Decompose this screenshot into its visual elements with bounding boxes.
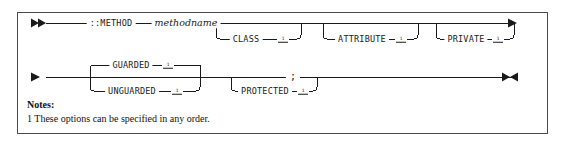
token-semicolon: ; <box>286 72 300 82</box>
footnote-ref-rule <box>396 41 406 42</box>
footnote-ref-class: 1 <box>277 36 289 43</box>
token-method-keyword: ::METHOD <box>87 19 136 28</box>
figure-border: ::METHOD methodname CLASS 1 ATTRIBUTE 1 … <box>17 12 548 134</box>
option-private-label: PRIVATE <box>444 35 487 44</box>
rail-markers <box>31 19 518 82</box>
footnote-ref-rule <box>493 41 503 42</box>
footnote-ref-rule <box>163 67 173 68</box>
token-methodname: methodname <box>152 18 221 28</box>
footnote-ref-protected: 1 <box>297 88 309 95</box>
footnote-ref-attribute-number: 1 <box>395 36 407 41</box>
syntax-diagram-figure: ::METHOD methodname CLASS 1 ATTRIBUTE 1 … <box>0 0 565 145</box>
footnote-ref-guarded-number: 1 <box>162 62 174 67</box>
option-guarded-label: GUARDED <box>109 61 152 70</box>
option-class-label: CLASS <box>230 35 263 44</box>
option-attribute-label: ATTRIBUTE <box>335 35 389 44</box>
footnote-ref-rule <box>172 93 182 94</box>
option-unguarded-label: UNGUARDED <box>105 87 159 96</box>
notes-block: Notes: 1 These options can be specified … <box>27 99 527 125</box>
footnote-ref-unguarded-number: 1 <box>171 88 183 93</box>
notes-item: 1 These options can be specified in any … <box>27 112 527 125</box>
footnote-ref-protected-number: 1 <box>297 88 309 93</box>
footnote-ref-attribute: 1 <box>395 36 407 43</box>
footnote-ref-private: 1 <box>492 36 504 43</box>
footnote-ref-guarded: 1 <box>162 62 174 69</box>
notes-heading: Notes: <box>27 99 527 111</box>
footnote-ref-class-number: 1 <box>277 36 289 41</box>
footnote-ref-private-number: 1 <box>492 36 504 41</box>
footnote-ref-rule <box>298 93 308 94</box>
footnote-ref-rule <box>278 41 288 42</box>
option-protected-label: PROTECTED <box>238 87 292 96</box>
footnote-ref-unguarded: 1 <box>171 88 183 95</box>
